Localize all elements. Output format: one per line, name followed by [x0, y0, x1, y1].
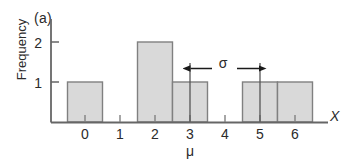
histogram-figure: (a) Frequency 2 1 0 1 2 3 4 5 6 X μ σ: [0, 0, 349, 166]
plot-area: [0, 0, 349, 166]
bar-2: [138, 42, 173, 122]
